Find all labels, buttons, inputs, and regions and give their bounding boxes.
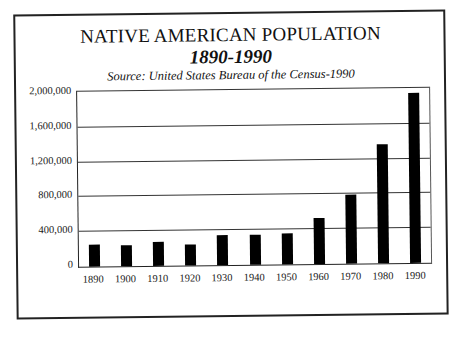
x-tick-label: 1960 [303,271,335,282]
plot-area [76,87,432,268]
x-tick-label: 1980 [367,270,399,281]
x-tick-label: 1910 [142,273,174,284]
x-tick-label: 1890 [77,273,109,284]
bar-1960 [313,218,325,264]
x-tick-label: 1930 [206,272,238,283]
y-tick-label: 1,200,000 [0,154,72,166]
bar-1900 [121,246,132,267]
x-tick-label: 1950 [270,271,302,282]
x-tick-label: 1920 [174,272,206,283]
x-axis: 1890190019101920193019401950196019701980… [0,0,462,3]
chart-figure: NATIVE AMERICAN POPULATION 1890-1990 Sou… [0,0,464,338]
y-tick-label: 800,000 [0,189,72,201]
bar-1890 [88,245,99,267]
bar-1910 [153,242,164,266]
y-tick-label: 0 [0,259,73,271]
bar-1970 [345,195,357,264]
y-tick-label: 1,600,000 [0,120,72,132]
bar-1930 [217,235,228,265]
x-tick-label: 1940 [238,272,270,283]
bar-1950 [281,233,292,264]
bar-1980 [377,145,389,264]
y-tick-label: 2,000,000 [0,85,71,97]
y-tick-label: 400,000 [0,224,73,236]
y-axis: 0400,000800,0001,200,0001,600,0002,000,0… [0,0,462,3]
bar-1940 [249,235,260,265]
bar-1990 [409,92,422,263]
gridline [78,123,430,128]
bar-1920 [185,244,196,265]
x-tick-label: 1900 [109,273,141,284]
x-tick-label: 1970 [335,270,367,281]
x-tick-label: 1990 [399,270,431,281]
